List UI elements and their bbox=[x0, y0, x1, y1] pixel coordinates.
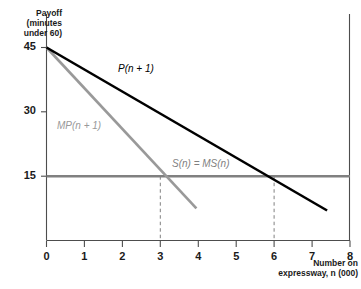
x-tick-label-6: 6 bbox=[264, 250, 284, 262]
series-label-s: S(n) = MS(n) bbox=[172, 158, 230, 169]
x-tick-label-1: 1 bbox=[74, 250, 94, 262]
y-tick-label-30: 30 bbox=[10, 104, 36, 116]
series-label-p: P(n + 1) bbox=[118, 63, 154, 74]
chart-plot-area bbox=[0, 0, 361, 289]
x-tick-label-2: 2 bbox=[112, 250, 132, 262]
x-tick-label-4: 4 bbox=[188, 250, 208, 262]
y-axis-title: Payoff (minutes under 60) bbox=[0, 8, 62, 39]
x-tick-label-8: 8 bbox=[340, 250, 360, 262]
y-tick-label-45: 45 bbox=[10, 40, 36, 52]
series-label-mp: MP(n + 1) bbox=[57, 120, 101, 131]
congestion-payoff-chart: Payoff (minutes under 60) Number on expr… bbox=[0, 0, 361, 289]
x-tick-label-3: 3 bbox=[150, 250, 170, 262]
y-tick-label-15: 15 bbox=[10, 169, 36, 181]
x-tick-label-0: 0 bbox=[37, 250, 57, 262]
x-tick-label-5: 5 bbox=[226, 250, 246, 262]
x-tick-label-7: 7 bbox=[302, 250, 322, 262]
